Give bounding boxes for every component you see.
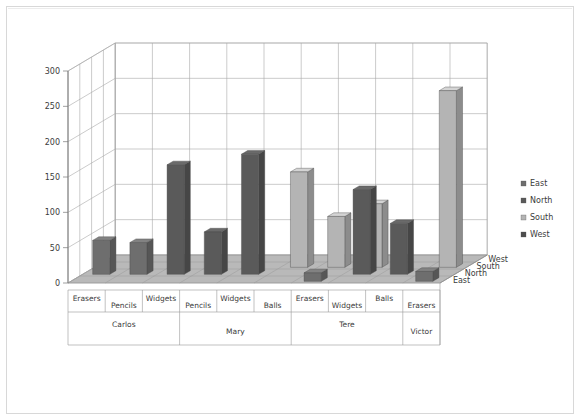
y-axis-tick-label: 250 [45, 102, 60, 111]
category-label: Balls [375, 294, 393, 303]
bar-front-face [328, 216, 345, 267]
bar-side-face [370, 186, 376, 274]
bar-victor-balls-north[interactable] [390, 220, 413, 275]
y-axis-tick-label: 300 [45, 67, 60, 76]
bar-victor-erasers-south[interactable] [439, 87, 462, 267]
bar-side-face [259, 151, 265, 275]
legend-label: West [530, 230, 550, 239]
bar-carlos-erasers-north[interactable] [93, 237, 116, 275]
category-label: Erasers [407, 301, 435, 310]
y-axis-tick-label: 100 [45, 208, 60, 217]
group-label: Victor [411, 327, 434, 336]
chart-legend[interactable]: EastNorthSouthWest [521, 179, 553, 239]
bar-tere-erasers-south[interactable] [328, 213, 351, 268]
bar-side-face [382, 200, 388, 267]
bar-tere-erasers-east[interactable] [304, 269, 327, 281]
bar-side-face [456, 87, 462, 267]
category-label: Widgets [220, 294, 250, 303]
bar-front-face [241, 154, 258, 274]
y-axis-ticks: 050100150200250300 [45, 67, 68, 288]
chart-window: 050100150200250300 ErasersPencilsWidgets… [0, 0, 580, 420]
group-label: Carlos [112, 320, 136, 329]
y-axis-tick-label: 0 [55, 279, 60, 288]
category-label: Erasers [296, 294, 324, 303]
category-label: Widgets [332, 301, 362, 310]
category-label: Pencils [111, 301, 137, 310]
bar-front-face [130, 243, 147, 275]
bar-side-face [221, 228, 227, 274]
bar-front-face [439, 91, 456, 268]
bar-front-face [353, 190, 370, 275]
legend-item-west[interactable]: West [521, 230, 550, 239]
legend-label: South [530, 213, 553, 222]
y-axis-tick-label: 50 [50, 244, 60, 253]
group-label: Mary [226, 327, 245, 336]
legend-swatch [521, 198, 526, 203]
bar-side-face [184, 161, 190, 274]
category-label: Widgets [146, 294, 176, 303]
legend-label: East [530, 179, 547, 188]
bar-victor-erasers-east[interactable] [416, 268, 439, 282]
bar-side-face [308, 168, 314, 267]
bar-mary-widgets-north[interactable] [241, 151, 264, 275]
bar-front-face [304, 273, 321, 281]
bar-front-face [290, 172, 307, 267]
group-labels: CarlosMaryTereVictor [112, 320, 433, 336]
category-label: Balls [264, 301, 282, 310]
legend-item-east[interactable]: East [521, 179, 547, 188]
legend-swatch [521, 215, 526, 220]
legend-label: North [530, 196, 552, 205]
y-axis-tick-label: 200 [45, 138, 60, 147]
chart-3d-column[interactable]: 050100150200250300 ErasersPencilsWidgets… [0, 0, 580, 420]
group-label: Tere [338, 320, 355, 329]
bar-mary-balls-south[interactable] [290, 168, 313, 267]
bar-side-face [110, 237, 116, 275]
bar-mary-pencils-north[interactable] [204, 228, 227, 274]
category-label: Pencils [185, 301, 211, 310]
legend-swatch [521, 232, 526, 237]
bar-carlos-pencils-north[interactable] [130, 239, 153, 274]
depth-axis-label: East [453, 276, 470, 285]
y-axis-tick-label: 150 [45, 173, 60, 182]
bar-side-face [345, 213, 351, 268]
bar-front-face [204, 232, 221, 274]
category-label: Erasers [73, 294, 101, 303]
legend-item-south[interactable]: South [521, 213, 553, 222]
bar-front-face [167, 165, 184, 275]
bar-side-face [407, 220, 413, 275]
bar-front-face [93, 240, 110, 274]
bar-front-face [416, 271, 433, 281]
bar-tere-widgets-north[interactable] [353, 186, 376, 274]
bar-side-face [147, 239, 153, 274]
legend-item-north[interactable]: North [521, 196, 552, 205]
bar-front-face [390, 223, 407, 274]
bar-carlos-widgets-north[interactable] [167, 161, 190, 274]
legend-swatch [521, 181, 526, 186]
